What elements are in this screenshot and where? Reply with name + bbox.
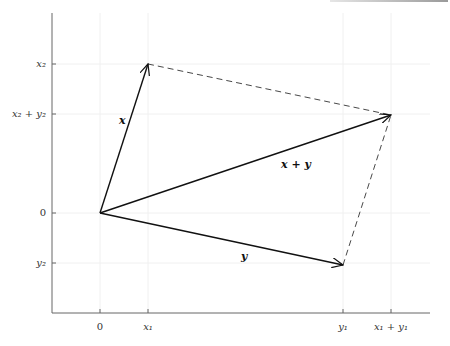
x-tick-label: x₁ + y₁ (374, 321, 408, 332)
grid (52, 13, 430, 313)
vector-y (100, 213, 343, 265)
dashed-edge-top (148, 64, 391, 115)
y-tick-label: x₂ + y₂ (12, 108, 46, 119)
x-tick-label: x₁ (143, 321, 153, 332)
y-tick-label: y₂ (35, 257, 46, 268)
vector-sum-label: x + y (280, 158, 312, 171)
vector-sum (100, 115, 391, 213)
y-tick-label: x₂ (36, 58, 46, 69)
y-tick-label: 0 (40, 207, 46, 218)
vector-diagram: 0 x₁ y₁ x₁ + y₁ x₂ x₂ + y₂ 0 y₂ x y x + … (0, 0, 450, 346)
dashed-edge-right (343, 115, 391, 265)
vector-x (100, 64, 148, 213)
vector-y-label: y (240, 250, 249, 263)
axes (52, 13, 430, 313)
x-tick-label: 0 (97, 321, 103, 332)
vector-x-label: x (118, 114, 126, 127)
x-tick-label: y₁ (337, 321, 348, 332)
